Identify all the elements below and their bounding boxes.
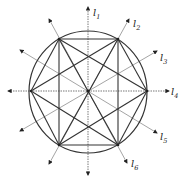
vertex-l bbox=[30, 90, 33, 93]
vertex-bl bbox=[58, 144, 61, 147]
chord-r-tr bbox=[118, 39, 147, 91]
label-l5: l5 bbox=[160, 131, 167, 145]
label-l2: l2 bbox=[133, 18, 140, 32]
vertex-br bbox=[117, 144, 120, 147]
vertex-r bbox=[146, 90, 149, 93]
center-point bbox=[86, 89, 89, 92]
label-l6: l6 bbox=[131, 158, 138, 172]
vertex-tr bbox=[117, 38, 120, 41]
geometry-diagram: l1l2l3l4l5l6 bbox=[0, 0, 180, 176]
label-l3: l3 bbox=[160, 52, 167, 66]
label-l1: l1 bbox=[93, 7, 100, 21]
vertex-tl bbox=[58, 38, 61, 41]
chord-r-br bbox=[118, 91, 147, 145]
label-l4: l4 bbox=[171, 86, 178, 100]
line-labels: l1l2l3l4l5l6 bbox=[93, 7, 178, 172]
